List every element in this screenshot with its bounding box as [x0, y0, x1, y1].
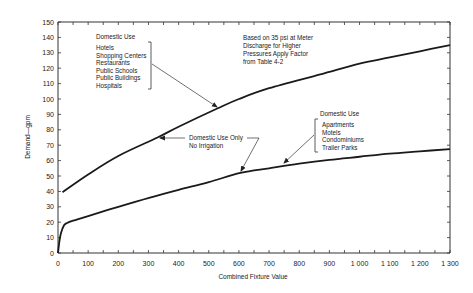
domestic-only-line1: Domestic Use Only [189, 134, 244, 142]
upper-group-item: Hospitals [96, 82, 122, 90]
note-line: Based on 35 psi at Meter [243, 34, 313, 42]
lower-group-annotation: Domestic Use Apartments Motels Condomini… [284, 110, 364, 163]
upper-group-arrow [152, 64, 217, 107]
x-tick-label: 1 200 [411, 260, 429, 267]
x-tick-label: 100 [82, 260, 94, 267]
y-tick-label: 140 [42, 34, 54, 41]
x-axis-title: Combined Fixture Value [218, 273, 288, 280]
lower-group-bracket [315, 119, 318, 152]
y-tick-label: 20 [46, 219, 54, 226]
lower-group-item: Motels [322, 129, 341, 136]
x-tick-label: 1 000 [351, 260, 369, 267]
note-line: Pressures Apply Factor [243, 50, 308, 58]
upper-group-bracket [148, 42, 151, 89]
y-tick-label: 120 [42, 65, 54, 72]
pressure-note: Based on 35 psi at Meter Discharge for H… [243, 34, 313, 65]
y-tick-label: 100 [42, 96, 54, 103]
upper-group-annotation: Domestic Use Hotels Shopping Centers Res… [96, 33, 217, 107]
x-tick-label: 200 [112, 260, 124, 267]
x-tick-label: 700 [263, 260, 275, 267]
lower-group-arrow [284, 135, 314, 163]
y-tick-label: 130 [42, 49, 54, 56]
y-tick-label: 110 [43, 80, 54, 87]
x-tick-label: 0 [56, 260, 60, 267]
x-tick-label: 1 300 [441, 260, 459, 267]
x-tick-label: 900 [324, 260, 336, 267]
y-tick-label: 40 [46, 188, 54, 195]
y-tick-label: 80 [46, 126, 54, 133]
y-tick-label: 150 [42, 19, 54, 26]
y-tick-label: 90 [46, 111, 54, 118]
lower-group-title: Domestic Use [320, 110, 360, 117]
upper-group-item: Public Schools [96, 67, 137, 74]
lower-group-item: Trailer Parks [322, 144, 357, 151]
y-axis-title: Demand—gpm [24, 115, 32, 159]
note-line: Discharge for Higher [243, 42, 301, 50]
x-tick-label: 300 [143, 260, 155, 267]
y-tick-label: 0 [50, 250, 54, 257]
y-tick-label: 30 [46, 203, 54, 210]
x-tick-label: 400 [173, 260, 185, 267]
y-tick-label: 70 [46, 142, 54, 149]
x-tick-label: 1 100 [381, 260, 399, 267]
y-tick-label: 10 [46, 234, 54, 241]
upper-group-title: Domestic Use [96, 33, 136, 40]
y-tick-label: 50 [46, 173, 54, 180]
domestic-only-arrow-right [241, 138, 259, 171]
lower-demand-curve [58, 149, 450, 253]
x-tick-label: 800 [293, 260, 305, 267]
domestic-only-annotation: Domestic Use Only No Irrigation [160, 134, 259, 171]
x-tick-label: 500 [203, 260, 215, 267]
upper-group-item: Restaurants [96, 59, 130, 66]
domestic-only-line2: No Irrigation [189, 142, 224, 150]
lower-group-item: Condominiums [322, 136, 364, 143]
upper-group-item: Hotels [96, 44, 114, 51]
demand-chart: 0102030405060708090100110120130140150 01… [0, 0, 473, 293]
y-tick-label: 60 [46, 157, 54, 164]
note-line: from Table 4-2 [243, 58, 284, 65]
x-tick-label: 600 [233, 260, 245, 267]
